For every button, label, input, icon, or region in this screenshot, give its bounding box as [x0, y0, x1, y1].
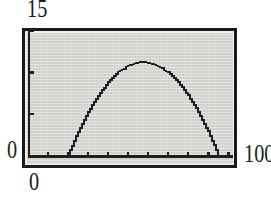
calculator-screen-frame: [22, 28, 237, 168]
x-axis-origin-label: 0: [29, 169, 39, 195]
screen-display: [27, 33, 233, 164]
y-axis-origin-label: 0: [7, 137, 17, 163]
x-axis-max-label: 100: [244, 141, 271, 167]
y-axis-max-label: 15: [27, 0, 47, 22]
calculator-graph-figure: 15 0 0 100: [0, 0, 271, 209]
